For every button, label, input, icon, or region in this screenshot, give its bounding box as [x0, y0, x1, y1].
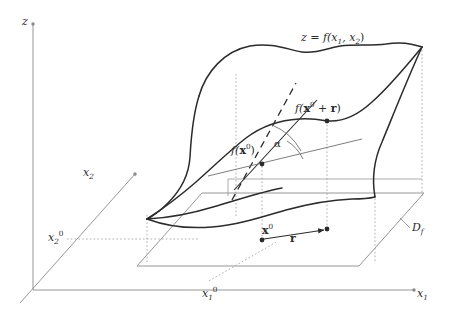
x0-point-label: x0: [262, 223, 273, 236]
domain-label-leader: [400, 218, 410, 228]
f-x0-label: f(x0): [231, 143, 255, 156]
surface-bottom-front: [147, 197, 375, 228]
z-axis-label: z: [22, 16, 28, 27]
domain-plane-rect: [137, 193, 424, 266]
figure-container: z x1 x2 x10 x20 z = f(x1, x2) f(x0 + r) …: [0, 0, 467, 313]
guide-x1-zero: [209, 241, 278, 281]
point-fx0-plus-r: [325, 119, 330, 124]
surface-top-ridge: [199, 43, 422, 96]
point-x0-plus-r: [325, 227, 330, 232]
x1-tick-label: x10: [202, 286, 217, 301]
x2-tick-label: x20: [48, 230, 63, 245]
vector-r-label: r: [290, 233, 296, 244]
x1-axis-label: x1: [417, 288, 428, 301]
domain-region-label: Df: [412, 222, 424, 235]
surface-right-fold: [374, 47, 422, 197]
domain-plane: [137, 193, 424, 266]
point-fx0: [260, 162, 265, 167]
f-x0-plus-r-label: f(x0 + r): [295, 101, 341, 114]
surface-equation-label: z = f(x1, x2): [301, 32, 364, 45]
angle-alpha-label: α: [274, 139, 281, 149]
x2-axis: [20, 174, 135, 303]
guide-lines: [67, 47, 422, 281]
x2-axis-label: x2: [83, 167, 94, 180]
point-x0: [260, 238, 265, 243]
